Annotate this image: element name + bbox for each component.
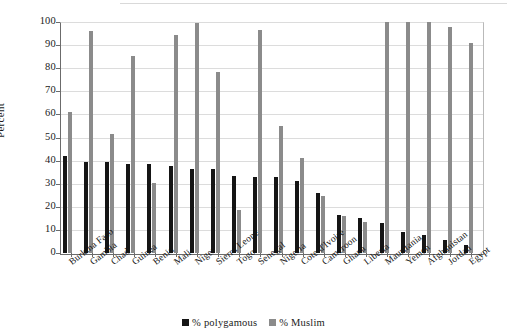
legend-item-label: % polygamous <box>192 317 257 328</box>
x-axis-labels: Burkina FasoGambiaChadGuineaBeninMaliNig… <box>0 0 507 336</box>
x-axis-category-label: Niger <box>193 245 217 267</box>
legend-item[interactable]: % polygamous <box>182 317 257 328</box>
bar-chart-figure: 0102030405060708090100 Percent Burkina F… <box>0 0 507 336</box>
black-square-swatch <box>182 319 189 326</box>
legend-item-label: % Muslim <box>279 317 325 328</box>
legend-item[interactable]: % Muslim <box>269 317 325 328</box>
gray-square-swatch <box>269 319 276 326</box>
chart-legend: % polygamous% Muslim <box>0 317 507 328</box>
